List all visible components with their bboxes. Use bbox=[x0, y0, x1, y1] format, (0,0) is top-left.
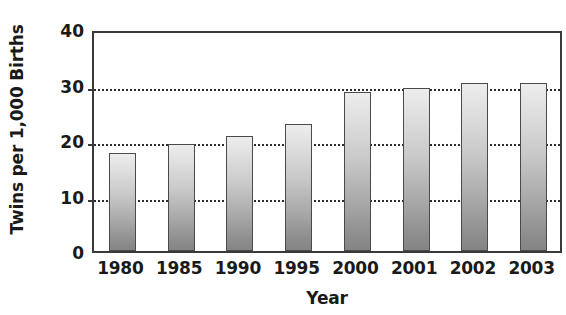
x-tick-label: 1985 bbox=[156, 258, 202, 278]
bar-2000 bbox=[344, 92, 371, 251]
bars-layer bbox=[94, 33, 560, 251]
x-tick-label: 2000 bbox=[332, 258, 378, 278]
y-tick-label: 30 bbox=[32, 78, 84, 95]
y-axis-tick-labels: 40 30 20 10 0 bbox=[32, 0, 84, 315]
x-axis-tick-labels: 1980 1985 1990 1995 2000 2001 2002 2003 bbox=[92, 258, 562, 284]
bar-1995 bbox=[285, 124, 312, 251]
x-tick-label: 1995 bbox=[274, 258, 320, 278]
y-tick-label: 10 bbox=[32, 189, 84, 206]
x-tick-label: 2003 bbox=[509, 258, 555, 278]
x-axis-title: Year bbox=[92, 288, 562, 308]
x-tick-label: 1980 bbox=[97, 258, 143, 278]
y-axis-title-text: Twins per 1,000 Births bbox=[7, 24, 27, 234]
bar-chart: Twins per 1,000 Births 40 30 20 10 0 bbox=[0, 0, 566, 315]
x-tick-label: 1990 bbox=[215, 258, 261, 278]
bar-2003 bbox=[520, 83, 547, 251]
bar-1990 bbox=[226, 136, 253, 251]
bar-2001 bbox=[403, 88, 430, 251]
bar-2002 bbox=[461, 83, 488, 251]
x-axis-title-text: Year bbox=[306, 288, 347, 308]
y-tick-label: 40 bbox=[32, 23, 84, 40]
y-axis-title: Twins per 1,000 Births bbox=[2, 2, 32, 257]
x-tick-label: 2001 bbox=[391, 258, 437, 278]
bar-1985 bbox=[168, 144, 195, 251]
x-tick-label: 2002 bbox=[450, 258, 496, 278]
plot-area bbox=[92, 31, 562, 253]
y-tick-label: 0 bbox=[32, 245, 84, 262]
y-tick-label: 20 bbox=[32, 134, 84, 151]
bar-1980 bbox=[109, 153, 136, 251]
